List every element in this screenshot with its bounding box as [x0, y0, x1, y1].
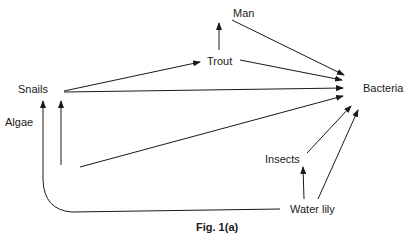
arrow-water-lily-to-bacteria	[318, 110, 358, 199]
arrow-snails-to-bacteria	[64, 88, 343, 92]
arrow-man-to-bacteria	[232, 20, 344, 75]
figure-caption: Fig. 1(a)	[196, 222, 238, 233]
node-algae: Algae	[5, 117, 33, 128]
node-snails: Snails	[18, 84, 48, 95]
food-web-diagram	[0, 0, 413, 242]
arrow-trout-to-bacteria	[240, 60, 342, 80]
arrow-water-lily-to-insects	[303, 167, 304, 199]
arrow-insects-to-bacteria	[307, 106, 351, 153]
node-insects: Insects	[265, 154, 300, 165]
node-trout: Trout	[207, 56, 232, 67]
node-bacteria: Bacteria	[363, 83, 403, 94]
arrow-water-lily-to-snails	[43, 101, 280, 212]
arrow-algae-to-bacteria	[80, 96, 343, 167]
node-man: Man	[233, 8, 254, 19]
node-water-lily: Water lily	[290, 204, 335, 215]
arrow-snails-to-trout	[64, 62, 200, 91]
